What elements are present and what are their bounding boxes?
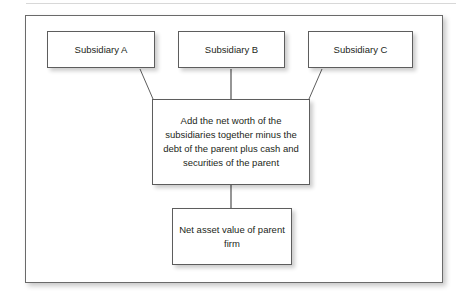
page-top-rule <box>26 3 456 4</box>
figure-screenshot: Subsidiary A Subsidiary B Subsidiary C A… <box>0 0 469 302</box>
node-result-label: Net asset value of parent firm <box>178 223 286 251</box>
node-subsidiary-b-label: Subsidiary B <box>184 43 279 57</box>
node-formula-label: Add the net worth of the subsidiaries to… <box>158 114 304 170</box>
node-subsidiary-c-label: Subsidiary C <box>314 43 407 57</box>
node-result: Net asset value of parent firm <box>172 208 292 265</box>
node-subsidiary-a-label: Subsidiary A <box>53 43 149 57</box>
node-subsidiary-c: Subsidiary C <box>308 31 413 68</box>
node-formula: Add the net worth of the subsidiaries to… <box>152 99 310 185</box>
node-subsidiary-b: Subsidiary B <box>178 31 285 68</box>
node-subsidiary-a: Subsidiary A <box>47 31 155 68</box>
